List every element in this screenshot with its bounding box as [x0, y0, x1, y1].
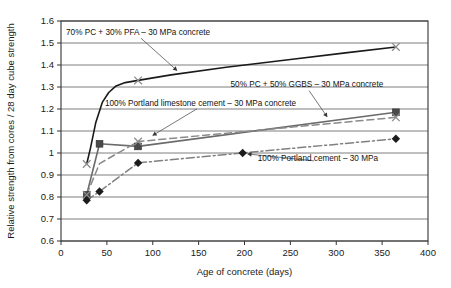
relative-strength-line-chart: 050100150200250300350400 0.60.70.80.911.… [0, 0, 451, 288]
annotation-arrowhead [323, 112, 327, 117]
x-axis-title: Age of concrete (days) [197, 266, 293, 277]
annotation-2: 100% Portland limestone cement – 30 MPa … [105, 99, 297, 135]
y-tick-label: 1.6 [41, 15, 54, 26]
chart-container: 050100150200250300350400 0.60.70.80.911.… [0, 0, 451, 288]
marker-diamond-series-3 [238, 149, 246, 157]
annotation-label: 100% Portland limestone cement – 30 MPa … [105, 99, 297, 108]
y-tick-label: 1 [49, 147, 54, 158]
x-axis-tickmarks [61, 241, 428, 245]
x-axis-tick-labels: 050100150200250300350400 [58, 247, 436, 258]
marker-diamond-series-3 [392, 135, 400, 143]
y-tick-label: 1.4 [41, 59, 54, 70]
annotation-label: 100% Portland cement – 30 MPa [258, 154, 379, 163]
x-tick-label: 250 [282, 247, 298, 258]
y-tick-label: 0.6 [41, 235, 54, 246]
x-tick-label: 50 [102, 247, 113, 258]
y-tick-label: 0.9 [41, 169, 54, 180]
x-tick-label: 400 [420, 247, 436, 258]
y-tick-label: 1.5 [41, 37, 54, 48]
annotation-3: 100% Portland cement – 30 MPa [247, 152, 378, 163]
x-tick-label: 100 [145, 247, 161, 258]
y-tick-label: 1.1 [41, 125, 54, 136]
annotation-leader [153, 109, 198, 136]
series-line-3 [87, 139, 396, 201]
y-tick-label: 1.2 [41, 103, 54, 114]
annotation-label: 70% PC + 30% PFA – 30 MPa concrete [66, 28, 210, 37]
annotation-0: 70% PC + 30% PFA – 30 MPa concrete [66, 28, 210, 71]
gridlines-group [61, 21, 428, 241]
data-series-group [87, 47, 396, 200]
marker-square-series-1 [96, 140, 103, 147]
y-axis-title: Relative strength from cores / 28 day cu… [5, 23, 16, 238]
x-tick-label: 300 [328, 247, 344, 258]
x-tick-label: 350 [374, 247, 390, 258]
y-tick-label: 0.8 [41, 191, 54, 202]
data-markers-group [82, 43, 400, 204]
annotation-leader [309, 91, 327, 117]
y-axis-tick-labels: 0.60.70.80.911.11.21.31.41.51.6 [41, 15, 54, 246]
series-annotations-group: 70% PC + 30% PFA – 30 MPa concrete50% PC… [66, 28, 384, 164]
y-tick-label: 0.7 [41, 213, 54, 224]
y-tick-label: 1.3 [41, 81, 54, 92]
y-axis-tickmarks [57, 21, 61, 241]
x-tick-label: 200 [237, 247, 253, 258]
annotation-label: 50% PC + 50% GGBS – 30 MPa concrete [231, 80, 384, 89]
x-tick-label: 0 [58, 247, 63, 258]
x-tick-label: 150 [191, 247, 207, 258]
